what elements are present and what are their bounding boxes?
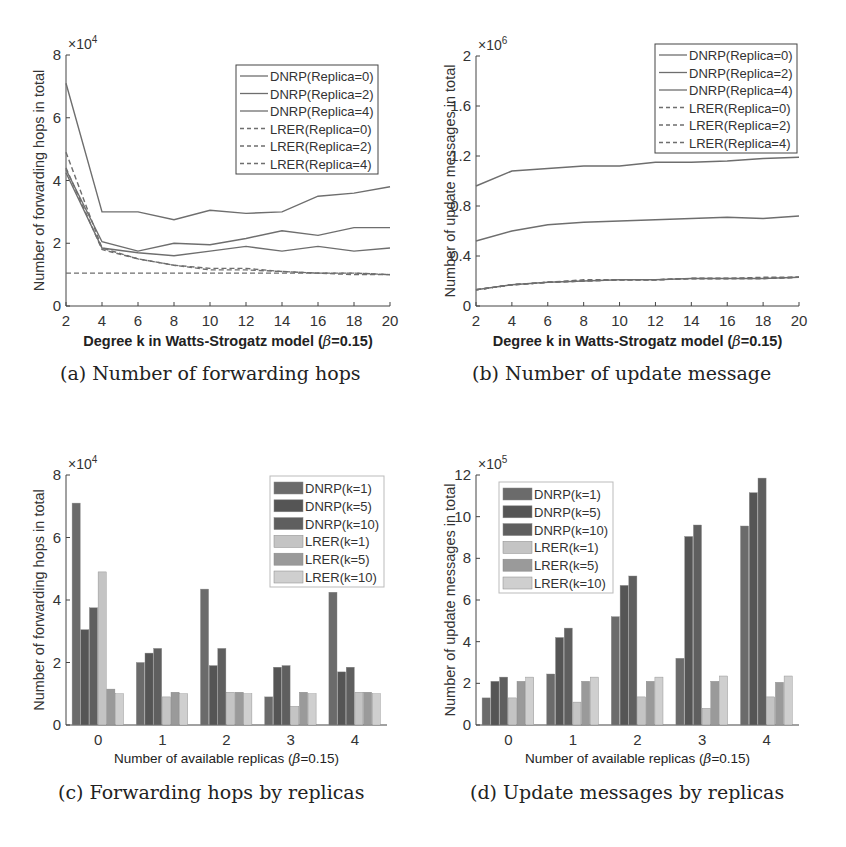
bar bbox=[81, 630, 89, 725]
y-axis-label: Number of forwarding hops in total bbox=[31, 70, 47, 292]
y-tick-label: 4 bbox=[53, 591, 61, 608]
legend-entry: LRER(k=1) bbox=[534, 540, 599, 555]
bar bbox=[162, 697, 170, 725]
bar bbox=[517, 681, 525, 725]
bar bbox=[201, 589, 209, 725]
bar bbox=[265, 697, 273, 725]
x-tick-label: 3 bbox=[287, 731, 295, 748]
bar bbox=[500, 677, 508, 725]
y-multiplier: ×104 bbox=[68, 34, 98, 52]
legend-entry: DNRP(Replica=2) bbox=[689, 66, 793, 81]
y-tick-label: 4 bbox=[463, 633, 471, 650]
bar bbox=[308, 694, 316, 725]
x-tick-label: 6 bbox=[134, 312, 142, 329]
legend-entry: LRER(Replica=4) bbox=[689, 136, 791, 151]
bar bbox=[98, 572, 106, 725]
legend-entry: DNRP(k=5) bbox=[305, 499, 372, 514]
y-axis-label: Number of update messages in total bbox=[442, 65, 458, 298]
bar bbox=[364, 692, 372, 725]
legend-entry: LRER(k=10) bbox=[305, 570, 377, 585]
x-tick-label: 1 bbox=[569, 731, 577, 748]
legend-entry: DNRP(k=5) bbox=[534, 505, 601, 520]
legend-entry: DNRP(k=10) bbox=[534, 523, 608, 538]
bar bbox=[629, 576, 637, 725]
x-tick-label: 2 bbox=[62, 312, 70, 329]
x-axis-label: Number of available replicas (β=0.15) bbox=[525, 750, 750, 766]
bar bbox=[749, 493, 757, 725]
chart-b: 00.40.81.21.62×106Number of update messa… bbox=[442, 35, 807, 349]
bar bbox=[702, 708, 710, 725]
legend-entry: LRER(k=5) bbox=[305, 552, 370, 567]
y-tick-label: 0 bbox=[53, 716, 61, 733]
legend-entry: LRER(k=5) bbox=[534, 558, 599, 573]
bar bbox=[508, 698, 516, 725]
series-line bbox=[66, 170, 390, 252]
bar bbox=[711, 681, 719, 725]
x-tick-label: 4 bbox=[763, 731, 771, 748]
y-tick-label: 8 bbox=[53, 466, 61, 483]
bar bbox=[329, 592, 337, 725]
y-axis-label: Number of update messages in total bbox=[442, 484, 458, 717]
legend: DNRP(k=1)DNRP(k=5)DNRP(k=10)LRER(k=1)LRE… bbox=[499, 482, 613, 593]
series-line bbox=[476, 277, 799, 290]
x-tick-label: 16 bbox=[310, 312, 327, 329]
bar bbox=[355, 692, 363, 725]
legend-entry: LRER(Replica=0) bbox=[689, 101, 791, 116]
bar bbox=[556, 638, 564, 726]
bar bbox=[767, 697, 775, 725]
bar bbox=[655, 677, 663, 725]
x-tick-label: 16 bbox=[719, 312, 736, 329]
bar bbox=[171, 692, 179, 725]
bar bbox=[235, 692, 243, 725]
legend-entry: LRER(Replica=2) bbox=[689, 118, 791, 133]
y-tick-label: 4 bbox=[53, 172, 61, 189]
bar bbox=[693, 525, 701, 725]
series-line bbox=[476, 216, 799, 241]
caption-b: (b) Number of update message bbox=[472, 362, 771, 384]
chart-d: 024681012×105Number of update messages i… bbox=[442, 454, 799, 766]
y-tick-label: 6 bbox=[53, 529, 61, 546]
x-tick-label: 4 bbox=[508, 312, 516, 329]
y-tick-label: 0 bbox=[463, 297, 471, 314]
bar bbox=[646, 681, 654, 725]
bar bbox=[526, 677, 534, 725]
bar bbox=[611, 617, 619, 725]
y-tick-label: 2 bbox=[463, 47, 471, 64]
bar bbox=[346, 667, 354, 725]
bar bbox=[72, 503, 80, 725]
legend-entry: LRER(k=10) bbox=[534, 576, 606, 591]
legend-entry: DNRP(k=10) bbox=[305, 517, 379, 532]
series-line bbox=[66, 173, 390, 256]
bar bbox=[115, 694, 123, 725]
x-tick-label: 18 bbox=[346, 312, 363, 329]
x-tick-label: 2 bbox=[472, 312, 480, 329]
legend-entry: LRER(Replica=2) bbox=[270, 139, 372, 154]
x-tick-label: 14 bbox=[274, 312, 291, 329]
legend-entry: DNRP(Replica=4) bbox=[689, 83, 793, 98]
bar bbox=[154, 648, 162, 725]
bar bbox=[720, 676, 728, 725]
x-tick-label: 12 bbox=[238, 312, 255, 329]
x-tick-label: 8 bbox=[170, 312, 178, 329]
bar bbox=[573, 702, 581, 725]
x-tick-label: 10 bbox=[611, 312, 628, 329]
y-tick-label: 6 bbox=[463, 591, 471, 608]
x-tick-label: 2 bbox=[633, 731, 641, 748]
y-tick-label: 8 bbox=[53, 46, 61, 63]
bar bbox=[89, 608, 97, 725]
legend-entry: DNRP(k=1) bbox=[534, 487, 601, 502]
y-tick-label: 12 bbox=[454, 466, 471, 483]
bar bbox=[299, 692, 307, 725]
bar bbox=[372, 694, 380, 725]
legend-entry: DNRP(Replica=2) bbox=[270, 87, 374, 102]
bar bbox=[590, 677, 598, 725]
y-tick-label: 2 bbox=[53, 234, 61, 251]
bar bbox=[685, 537, 693, 726]
legend: DNRP(Replica=0)DNRP(Replica=2)DNRP(Repli… bbox=[655, 44, 797, 153]
bar bbox=[218, 648, 226, 725]
bar bbox=[244, 694, 252, 725]
x-tick-label: 0 bbox=[94, 731, 102, 748]
bar bbox=[282, 666, 290, 725]
bar bbox=[582, 681, 590, 725]
bar bbox=[107, 689, 115, 725]
